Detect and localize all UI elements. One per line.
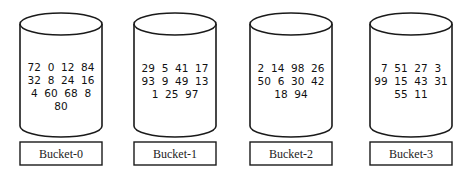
bucket-label: Bucket-1 bbox=[153, 147, 197, 161]
bucket-2: 2 14 98 26 50 6 30 42 18 94 Bucket-2 bbox=[250, 13, 332, 165]
cylinder-top bbox=[250, 13, 332, 35]
bucket-label: Bucket-3 bbox=[389, 147, 433, 161]
bucket-diagram: 72 0 12 84 32 8 24 16 4 60 68 8 80 Bucke… bbox=[0, 0, 470, 178]
cylinder-top bbox=[134, 13, 216, 35]
bucket-values-row: 99 15 43 31 bbox=[374, 75, 447, 87]
bucket-values-row: 72 0 12 84 bbox=[28, 61, 95, 73]
bucket-values-row: 7 51 27 3 bbox=[381, 62, 441, 74]
bucket-1: 29 5 41 17 93 9 49 13 1 25 97 Bucket-1 bbox=[134, 13, 216, 165]
bucket-values-row: 18 94 bbox=[274, 88, 308, 100]
bucket-values-row: 32 8 24 16 bbox=[28, 74, 95, 86]
bucket-0: 72 0 12 84 32 8 24 16 4 60 68 8 80 Bucke… bbox=[20, 13, 102, 165]
bucket-3: 7 51 27 3 99 15 43 31 55 11 Bucket-3 bbox=[370, 13, 452, 165]
cylinder-top bbox=[20, 13, 102, 35]
bucket-values-row: 55 11 bbox=[394, 88, 427, 100]
cylinder-top bbox=[370, 13, 452, 35]
bucket-values-row: 1 25 97 bbox=[152, 88, 199, 100]
bucket-label: Bucket-2 bbox=[269, 147, 313, 161]
bucket-label: Bucket-0 bbox=[39, 147, 83, 161]
bucket-values-row: 4 60 68 8 bbox=[31, 87, 91, 99]
bucket-values-row: 2 14 98 26 bbox=[258, 62, 325, 74]
bucket-values-row: 93 9 49 13 bbox=[142, 75, 209, 87]
bucket-values-row: 50 6 30 42 bbox=[258, 75, 325, 87]
bucket-values-row: 29 5 41 17 bbox=[142, 62, 209, 74]
bucket-values-row: 80 bbox=[54, 100, 67, 112]
